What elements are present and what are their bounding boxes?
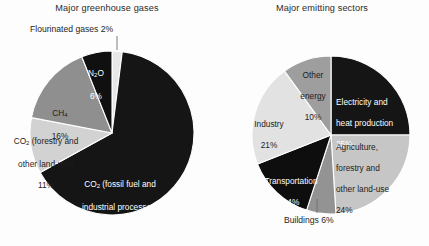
co2-fossil-label-line2: industrial processes) — [82, 202, 158, 212]
n2o-label-text: N2O — [88, 68, 104, 78]
n2o-slice-label: N2O 6% — [74, 58, 118, 102]
industry-slice-label: Industry 21% — [241, 109, 297, 151]
chart-panel-emitting-sectors: Major emitting sectors Other energy 10% … — [215, 0, 429, 246]
other-energy-label-line2: energy — [300, 91, 325, 101]
co2-forestry-label-line2: other land-use) — [18, 159, 74, 169]
agriculture-slice-label: Agriculture, forestry and other land-use… — [336, 132, 428, 215]
co2-fossil-slice-label: CO2 (fossil fuel and industrial processe… — [55, 169, 185, 234]
co2-fossil-label-line1: CO2 (fossil fuel and — [84, 179, 156, 189]
buildings-callout-label: Buildings 6% — [284, 215, 334, 225]
n2o-percent: 6% — [90, 91, 102, 101]
other-energy-percent: 10% — [305, 112, 322, 122]
ch4-label-text: CH4 — [52, 108, 67, 118]
electricity-heat-label-line1: Electricity and — [336, 97, 388, 107]
agriculture-label-line3: other land-use — [336, 184, 389, 194]
industry-percent: 21% — [261, 140, 278, 150]
electricity-heat-label-line2: heat production — [336, 118, 393, 128]
co2-fossil-percent: 65% — [112, 223, 129, 233]
industry-label-line1: Industry — [254, 119, 284, 129]
agriculture-label-line2: forestry and — [336, 163, 380, 173]
transportation-slice-label: Transportation 14% — [253, 166, 329, 208]
other-energy-label-line1: Other — [303, 70, 324, 80]
co2-forestry-percent: 11% — [38, 180, 54, 190]
agriculture-label-line1: Agriculture, — [336, 142, 378, 152]
greenhouse-gas-figure: Major greenhouse gases Flourinated gases… — [0, 0, 429, 246]
transportation-label-line1: Transportation — [264, 176, 317, 186]
flourinated-gases-callout-label: Flourinated gases 2% — [30, 24, 113, 34]
agriculture-percent: 24% — [336, 205, 353, 215]
chart-panel-greenhouse-gases: Major greenhouse gases Flourinated gases… — [0, 0, 215, 246]
transportation-percent: 14% — [283, 197, 300, 207]
co2-forestry-label-line1: CO2 (forestry and — [14, 136, 79, 146]
